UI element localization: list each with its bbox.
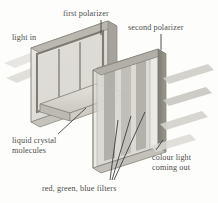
- lcd-diagram-figure: first polarizer second polarizer light i…: [0, 0, 218, 203]
- label-liquid-crystal-line1: liquid crystal: [12, 136, 82, 146]
- label-colour-light-line1: colour light: [152, 153, 214, 163]
- label-second-polarizer: second polarizer: [128, 23, 183, 33]
- label-colour-light-coming-out: colour light coming out: [152, 153, 214, 172]
- label-liquid-crystal-molecules: liquid crystal molecules: [12, 136, 82, 155]
- label-liquid-crystal-line2: molecules: [12, 146, 82, 156]
- lcd-diagram-illustration: [0, 0, 218, 203]
- label-rgb-filters: red, green, blue filters: [42, 184, 116, 194]
- label-first-polarizer: first polarizer: [63, 9, 109, 19]
- label-light-in: light in: [12, 33, 36, 43]
- label-colour-light-line2: coming out: [152, 163, 214, 173]
